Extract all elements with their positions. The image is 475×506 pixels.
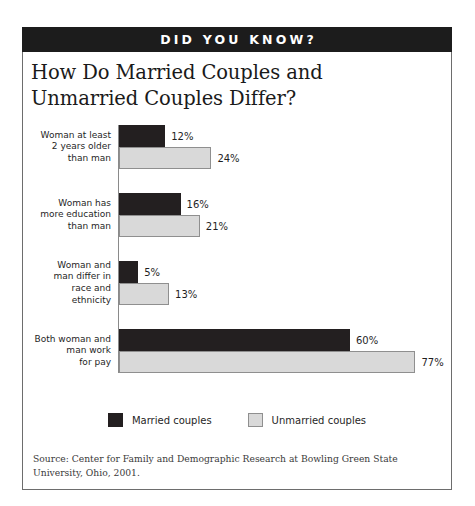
- source-note: Source: Center for Family and Demographi…: [33, 452, 423, 479]
- bar-value-unmarried: 77%: [415, 357, 443, 368]
- banner-label: DID YOU KNOW?: [157, 32, 317, 47]
- bar-value-married: 16%: [181, 199, 209, 210]
- legend-swatch-unmarried: [248, 413, 263, 427]
- bar-value-unmarried: 13%: [169, 289, 197, 300]
- bar-unmarried: [119, 215, 200, 237]
- category-label: Both woman andman workfor pay: [21, 334, 111, 369]
- bar-value-married: 60%: [350, 335, 378, 346]
- chart-group: Both woman andman workfor pay60%77%: [22, 329, 452, 373]
- bar-row-married: 60%: [119, 329, 452, 351]
- bar-value-unmarried: 21%: [200, 221, 228, 232]
- chart-legend: Married couples Unmarried couples: [22, 413, 452, 427]
- bar-value-unmarried: 24%: [211, 153, 239, 164]
- bar-married: [119, 193, 181, 215]
- bar-row-unmarried: 24%: [119, 147, 452, 169]
- chart-group: Woman andman differ inrace andethnicity5…: [22, 261, 452, 305]
- legend-item-unmarried: Unmarried couples: [248, 413, 366, 427]
- infographic-page: DID YOU KNOW? How Do Married Couples and…: [0, 0, 475, 506]
- bar-chart: Woman at least2 years olderthan man12%24…: [22, 122, 452, 407]
- bar-unmarried: [119, 283, 169, 305]
- chart-group: Woman at least2 years olderthan man12%24…: [22, 125, 452, 169]
- bar-value-married: 5%: [138, 267, 160, 278]
- category-label: Woman at least2 years olderthan man: [21, 130, 111, 165]
- bar-row-unmarried: 77%: [119, 351, 452, 373]
- bar-married: [119, 125, 165, 147]
- bar-married: [119, 261, 138, 283]
- category-label: Woman hasmore educationthan man: [21, 198, 111, 233]
- legend-label-married: Married couples: [132, 415, 212, 426]
- bar-unmarried: [119, 147, 211, 169]
- bar-married: [119, 329, 350, 351]
- bar-row-married: 5%: [119, 261, 452, 283]
- bar-row-married: 16%: [119, 193, 452, 215]
- legend-label-unmarried: Unmarried couples: [272, 415, 366, 426]
- bar-value-married: 12%: [165, 131, 193, 142]
- bar-row-unmarried: 13%: [119, 283, 452, 305]
- bar-row-unmarried: 21%: [119, 215, 452, 237]
- category-label: Woman andman differ inrace andethnicity: [21, 260, 111, 306]
- did-you-know-banner: DID YOU KNOW?: [22, 27, 452, 52]
- legend-item-married: Married couples: [108, 413, 212, 427]
- bar-unmarried: [119, 351, 415, 373]
- chart-group: Woman hasmore educationthan man16%21%: [22, 193, 452, 237]
- page-title: How Do Married Couples and Unmarried Cou…: [31, 60, 433, 112]
- bar-row-married: 12%: [119, 125, 452, 147]
- legend-swatch-married: [108, 413, 123, 427]
